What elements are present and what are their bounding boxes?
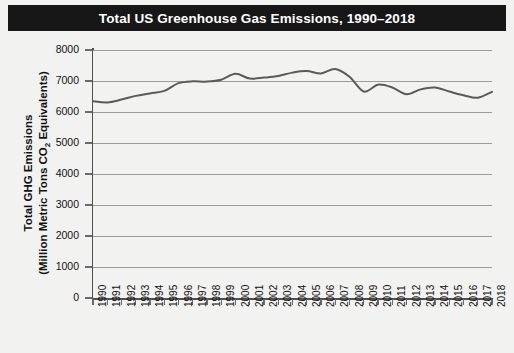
x-axis-tick-label: 2015 xyxy=(453,285,464,307)
x-axis-tick xyxy=(92,299,93,305)
page-title: Total US Greenhouse Gas Emissions, 1990–… xyxy=(99,11,415,26)
y-axis-tick-label: 7000 xyxy=(39,74,79,86)
y-axis-tick xyxy=(85,173,92,175)
x-axis-tick-label: 2014 xyxy=(439,285,450,307)
x-axis-tick-label: 2009 xyxy=(368,285,379,307)
x-axis-tick-label: 1996 xyxy=(183,285,194,307)
x-axis-tick-label: 2000 xyxy=(240,285,251,307)
x-axis-tick-label: 1997 xyxy=(197,285,208,307)
series-line xyxy=(93,50,492,298)
x-axis-tick-label: 2012 xyxy=(411,285,422,307)
x-axis-tick-label: 2013 xyxy=(425,285,436,307)
y-axis-tick-label: 1000 xyxy=(39,260,79,272)
x-axis-tick-label: 1994 xyxy=(154,285,165,307)
x-axis-tick-label: 1998 xyxy=(211,285,222,307)
y-axis-tick xyxy=(85,204,92,206)
y-axis-tick-label: 0 xyxy=(39,291,79,303)
y-axis-tick xyxy=(85,235,92,237)
x-axis-tick-label: 2017 xyxy=(482,285,493,307)
x-axis-tick-label: 1999 xyxy=(225,285,236,307)
y-axis-tick-label: 3000 xyxy=(39,198,79,210)
x-axis-tick-label: 2003 xyxy=(282,285,293,307)
plot-area xyxy=(93,50,492,298)
y-axis-tick xyxy=(85,49,92,51)
x-axis-tick-label: 1995 xyxy=(168,285,179,307)
y-axis-tick xyxy=(85,297,92,299)
chart-figure: Total US Greenhouse Gas Emissions, 1990–… xyxy=(0,0,514,353)
x-axis-tick-label: 2010 xyxy=(382,285,393,307)
y-axis-title-line2-pre: (Million Metric Tons CO xyxy=(37,147,49,275)
x-axis-tick-label: 2018 xyxy=(496,285,507,307)
data-series-path xyxy=(93,69,492,103)
x-axis-tick-label: 1992 xyxy=(126,285,137,307)
x-axis-tick-label: 2002 xyxy=(268,285,279,307)
x-axis-tick-label: 2001 xyxy=(254,285,265,307)
y-axis-tick-label: 8000 xyxy=(39,43,79,55)
y-axis-tick-label: 2000 xyxy=(39,229,79,241)
x-axis-tick-label: 2008 xyxy=(354,285,365,307)
chart-title-bar: Total US Greenhouse Gas Emissions, 1990–… xyxy=(8,5,506,31)
x-axis-tick-label: 2006 xyxy=(325,285,336,307)
x-axis-tick-label: 1991 xyxy=(111,285,122,307)
x-axis-tick-label: 2011 xyxy=(396,285,407,307)
x-axis-tick-label: 2016 xyxy=(468,285,479,307)
y-axis-tick xyxy=(85,266,92,268)
x-axis-tick-label: 1993 xyxy=(140,285,151,307)
x-axis-tick-label: 1990 xyxy=(97,285,108,307)
y-axis-tick xyxy=(85,80,92,82)
y-axis-tick xyxy=(85,142,92,144)
y-axis-tick xyxy=(85,111,92,113)
x-axis-tick-label: 2004 xyxy=(297,285,308,307)
y-axis-tick-label: 5000 xyxy=(39,136,79,148)
y-axis-tick-label: 4000 xyxy=(39,167,79,179)
x-axis-tick-label: 2005 xyxy=(311,285,322,307)
y-axis-tick-label: 6000 xyxy=(39,105,79,117)
x-axis-tick-label: 2007 xyxy=(339,285,350,307)
y-axis-title-line1: Total GHG Emissions xyxy=(21,71,36,275)
